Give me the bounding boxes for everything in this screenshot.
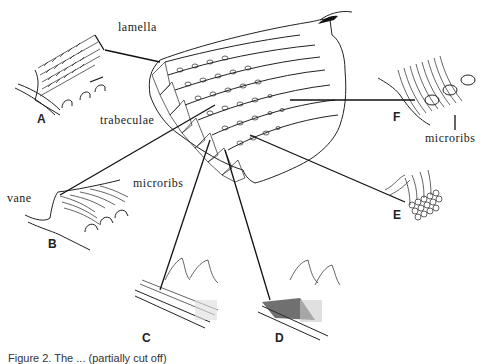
panel-c-drawing — [135, 258, 218, 328]
label-trabeculae: trabeculae — [100, 113, 154, 128]
figure-caption: Figure 2. The ... (partially cut off) — [8, 352, 167, 364]
panel-d-drawing — [258, 260, 340, 340]
panel-label-a: A — [37, 112, 46, 126]
leader-lines — [60, 35, 455, 300]
microribs-b-leader — [90, 77, 103, 82]
label-vane: vane — [7, 191, 32, 206]
panel-label-c: C — [142, 331, 151, 345]
panel-b-drawing — [25, 180, 128, 250]
panel-label-d: D — [275, 331, 284, 345]
panel-label-e: E — [393, 208, 401, 222]
main-structure — [149, 11, 352, 183]
a-leader — [105, 50, 160, 62]
panel-label-f: F — [393, 110, 400, 124]
panel-label-b: B — [48, 237, 57, 251]
d-leader — [225, 150, 270, 300]
label-lamella: lamella — [118, 20, 157, 35]
label-microribs-f: microribs — [425, 131, 476, 146]
panel-a-drawing — [15, 35, 105, 115]
lamella-leader — [95, 35, 104, 50]
label-microribs-b: microribs — [133, 176, 184, 191]
